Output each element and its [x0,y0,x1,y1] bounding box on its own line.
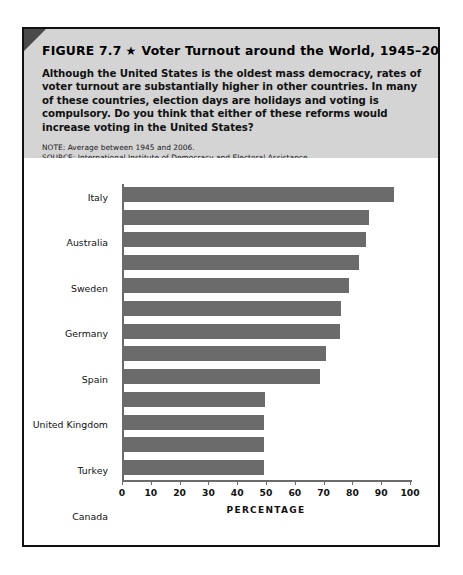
x-tick [266,480,267,485]
category-label: Canada [22,511,108,522]
figure-description: Although the United States is the oldest… [42,67,422,134]
x-tick [295,480,296,485]
x-tick-label: 0 [107,487,137,498]
x-tick [208,480,209,485]
x-tick [352,480,353,485]
category-label: Italy [22,192,108,203]
bar-chart-plot: ItalyAustraliaSwedenGermanySpainUnited K… [122,184,410,480]
bar-row: Brazil [122,437,410,452]
category-label: Spain [22,374,108,385]
bar [124,187,394,202]
x-tick [237,480,238,485]
x-axis-title: PERCENTAGE [122,505,410,515]
category-label: Sweden [22,283,108,294]
x-tick-label: 20 [165,487,195,498]
x-tick-label: 50 [251,487,281,498]
x-tick-label: 60 [280,487,310,498]
category-label: Australia [22,237,108,248]
bar [124,301,341,316]
x-tick [151,480,152,485]
bar-row: Canada [122,346,410,361]
x-tick-label: 90 [366,487,396,498]
x-tick [381,480,382,485]
bar-row: Spain [122,278,410,293]
bar-row: Germany [122,255,410,270]
bar [124,255,359,270]
x-tick [122,480,123,485]
bar [124,278,349,293]
x-tick [410,480,411,485]
x-tick-label: 40 [222,487,252,498]
x-tick-label: 30 [193,487,223,498]
x-axis-line [122,480,412,482]
figure-header: FIGURE 7.7★Voter Turnout around the Worl… [24,29,438,158]
bar [124,324,340,339]
bar [124,232,366,247]
bar-row: France [122,369,410,384]
figure-box: FIGURE 7.7★Voter Turnout around the Worl… [22,27,440,547]
bar-row: Thailand [122,460,410,475]
x-tick-label: 100 [395,487,425,498]
page-fold-icon [24,29,46,51]
x-tick-label: 80 [337,487,367,498]
category-label: United Kingdom [22,419,108,430]
x-tick-label: 10 [136,487,166,498]
bar-row: Australia [122,210,410,225]
bar-row: Italy [122,187,410,202]
bar [124,460,264,475]
x-tick [324,480,325,485]
bar [124,210,369,225]
chart-area: ItalyAustraliaSwedenGermanySpainUnited K… [24,158,438,547]
bar [124,346,326,361]
bar-row: United States [122,392,410,407]
bar [124,437,264,452]
bar [124,392,265,407]
bar-row: Turkey [122,324,410,339]
figure-title: Voter Turnout around the World, 1945–200… [142,43,440,58]
bar-row: Sweden [122,232,410,247]
figure-note: NOTE: Average between 1945 and 2006. [42,143,422,153]
star-icon: ★ [126,44,137,58]
x-tick [180,480,181,485]
bar-row: Mexico [122,415,410,430]
bar [124,369,320,384]
bar [124,415,264,430]
category-label: Germany [22,328,108,339]
x-tick-label: 70 [309,487,339,498]
figure-number: FIGURE 7.7 [42,43,122,58]
category-label: Turkey [22,465,108,476]
bar-row: United Kingdom [122,301,410,316]
figure-title-line: FIGURE 7.7★Voter Turnout around the Worl… [42,43,422,58]
